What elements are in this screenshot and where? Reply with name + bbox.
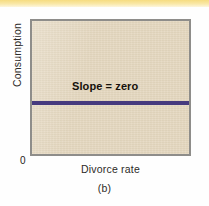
x-axis-label: Divorce rate — [30, 163, 191, 175]
y-axis-label: Consumption — [11, 0, 23, 115]
zero-slope-line — [32, 101, 189, 105]
figure-panel-b: Slope = zero Consumption Divorce rate 0 … — [0, 0, 209, 206]
plot-area: Slope = zero — [30, 19, 191, 156]
panel-caption: (b) — [0, 182, 209, 194]
origin-tick-label: 0 — [20, 155, 26, 166]
slope-annotation-label: Slope = zero — [72, 80, 138, 92]
page-top-stripe — [0, 0, 209, 7]
